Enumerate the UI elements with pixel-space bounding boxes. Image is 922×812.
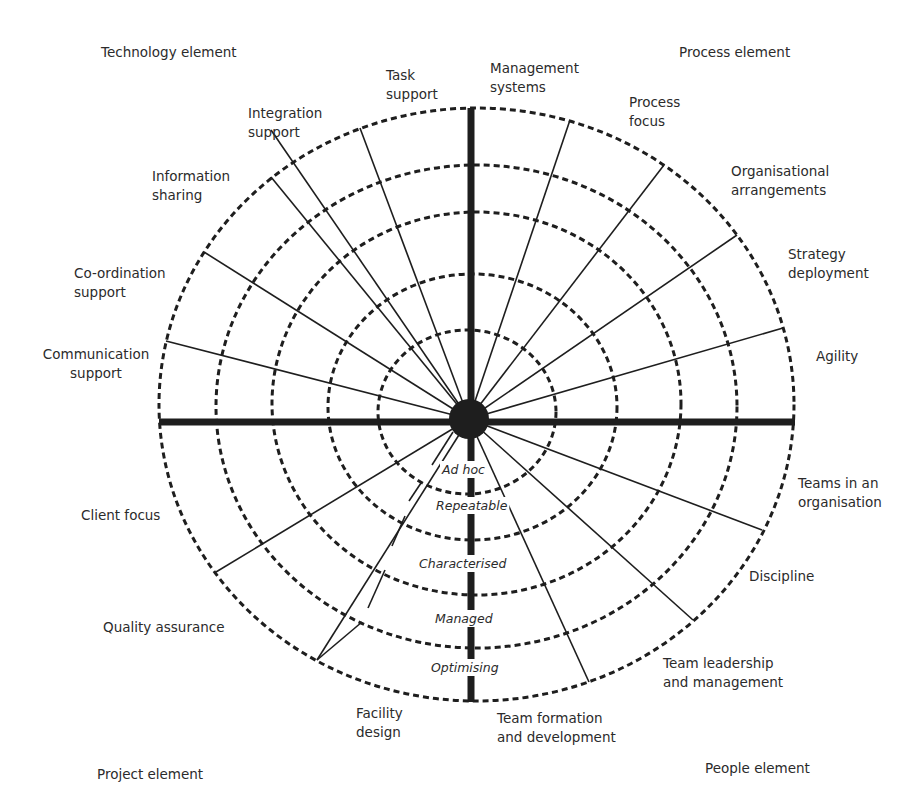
spoke-label-client-focus: Client focus [81, 507, 160, 523]
spoke-teams-in-an-organisation [469, 419, 762, 530]
quadrant-label-people-element: People element [705, 760, 810, 776]
spoke-label-strategy-deployment: Strategydeployment [788, 246, 869, 281]
level-label-characterised: Characterised [419, 556, 506, 571]
spoke-label-discipline: Discipline [749, 568, 814, 584]
spoke-label-task-support: Tasksupport [385, 67, 438, 102]
spoke-label-communication-support: Communicationsupport [43, 346, 149, 381]
spoke-label-management-systems: Managementsystems [490, 60, 579, 95]
spoke-information-sharing [271, 177, 469, 419]
spoke-discipline [469, 419, 693, 620]
level-label-repeatable: Repeatable [436, 498, 508, 513]
hub-circle [449, 399, 489, 439]
spoke-organisational-arrangements [469, 165, 664, 419]
spoke-co-ordination-support [204, 252, 469, 419]
spoke-label-process-focus: Processfocus [629, 94, 680, 129]
spoke-label-facility-design: Facilitydesign [356, 705, 403, 740]
spoke-label-team-leadership-and-management: Team leadershipand management [662, 655, 783, 690]
spoke-label-teams-in-an-organisation: Teams in anorganisation [797, 475, 882, 510]
quadrant-label-process-element: Process element [679, 44, 790, 60]
quadrant-label-project-element: Project element [97, 766, 203, 782]
spoke-label-agility: Agility [816, 348, 858, 364]
spoke-label-integration-support: Integrationsupport [248, 105, 322, 140]
level-leader-segment [317, 622, 362, 660]
maturity-wheel-diagram: TasksupportIntegrationsupportInformation… [0, 0, 922, 812]
spoke-label-information-sharing: Informationsharing [152, 168, 230, 203]
spoke-label-team-formation-and-development: Team formationand development [496, 710, 616, 745]
center-hub [449, 399, 489, 439]
level-leader-line [317, 432, 453, 660]
spoke-label-organisational-arrangements: Organisationalarrangements [731, 163, 829, 198]
level-label-optimising: Optimising [431, 660, 499, 675]
spoke-label-co-ordination-support: Co-ordinationsupport [74, 265, 166, 300]
spoke-label-quality-assurance: Quality assurance [103, 619, 225, 635]
spoke-strategy-deployment [469, 235, 737, 419]
level-label-managed: Managed [435, 611, 493, 626]
level-label-ad-hoc: Ad hoc [441, 462, 485, 477]
quadrant-label-technology-element: Technology element [100, 44, 237, 60]
